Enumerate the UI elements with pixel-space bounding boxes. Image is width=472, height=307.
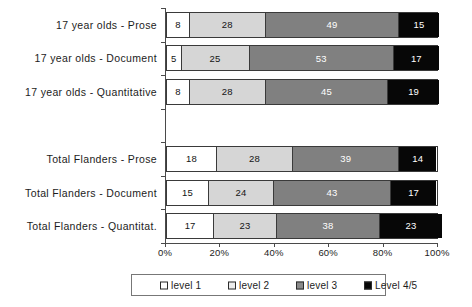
legend-label: level 1: [171, 280, 201, 291]
bar-segment-1: 8: [167, 80, 189, 104]
bar-segment-3: 43: [273, 181, 390, 205]
bar-segment-1: 18: [167, 147, 216, 171]
bar-segment-value: 8: [175, 20, 180, 30]
bar-segment-value: 28: [222, 20, 233, 30]
bar-segment-value: 49: [327, 20, 338, 30]
category-label: Total Flanders - Document: [25, 187, 157, 199]
stacked-bar: 8284519: [166, 79, 438, 105]
bar-segment-3: 38: [276, 214, 379, 238]
bar-segment-value: 8: [175, 87, 180, 97]
stacked-bar-chart: 17 year olds - Prose17 year olds - Docum…: [0, 0, 472, 307]
y-axis-tick: [161, 176, 165, 177]
bar-segment-value: 43: [327, 188, 338, 198]
legend-item[interactable]: Level 4/5: [364, 280, 417, 291]
bar-segment-1: 5: [167, 46, 181, 70]
bar-segment-value: 24: [235, 188, 246, 198]
stacked-bar: 15244317: [166, 180, 438, 206]
y-axis-tick: [161, 8, 165, 9]
bar-segment-value: 15: [182, 188, 193, 198]
stacked-bar: 8284915: [166, 12, 438, 38]
bar-segment-2: 28: [189, 13, 265, 37]
bar-segment-4: 17: [390, 181, 436, 205]
category-label: Total Flanders - Prose: [47, 153, 157, 165]
bar-segment-1: 15: [167, 181, 208, 205]
bar-segment-value: 28: [249, 154, 260, 164]
x-axis-tick-label: 20%: [210, 247, 230, 258]
bar-segment-1: 8: [167, 13, 189, 37]
stacked-bar: 18283914: [166, 146, 438, 172]
y-axis-tick: [161, 109, 165, 110]
chart-legend: level 1level 2level 3Level 4/5: [131, 274, 386, 296]
plot-area: 8284915525531782845191828391415244317172…: [165, 8, 437, 243]
bar-segment-2: 23: [213, 214, 276, 238]
x-axis-tick-labels: 0%20%40%60%80%100%: [165, 247, 438, 261]
y-axis-tick: [161, 142, 165, 143]
bar-segment-4: 14: [398, 147, 436, 171]
bar-segment-value: 23: [240, 221, 251, 231]
legend-swatch-icon: [228, 281, 236, 289]
category-label: Total Flanders - Quantitat.: [27, 220, 157, 232]
bar-segment-2: 28: [216, 147, 292, 171]
bar-segment-value: 17: [185, 221, 196, 231]
bar-segment-value: 25: [210, 54, 221, 64]
bar-segment-value: 19: [408, 87, 419, 97]
category-label: 17 year olds - Prose: [56, 19, 157, 31]
y-axis-tick: [161, 209, 165, 210]
category-label: 17 year olds - Document: [35, 52, 157, 64]
category-label: 17 year olds - Quantitative: [25, 86, 157, 98]
bar-segment-value: 5: [171, 54, 176, 64]
legend-label: level 2: [239, 280, 269, 291]
bar-segment-value: 15: [414, 20, 425, 30]
legend-swatch-icon: [296, 281, 304, 289]
x-axis-tick-label: 60%: [318, 247, 338, 258]
bar-segment-value: 14: [412, 154, 423, 164]
bar-segment-value: 38: [322, 221, 333, 231]
bar-segment-value: 45: [321, 87, 332, 97]
y-axis-line: [165, 8, 166, 243]
legend-item[interactable]: level 1: [160, 280, 201, 291]
legend-label: Level 4/5: [375, 280, 417, 291]
stacked-bar: 17233823: [166, 213, 438, 239]
bar-segment-3: 53: [249, 46, 393, 70]
legend-label: level 3: [307, 280, 337, 291]
y-axis-tick: [161, 75, 165, 76]
x-axis-tick-label: 40%: [264, 247, 284, 258]
bar-segment-1: 17: [167, 214, 213, 238]
bar-segment-value: 28: [222, 87, 233, 97]
bar-segment-value: 17: [411, 54, 422, 64]
legend-swatch-icon: [160, 281, 168, 289]
bar-segment-value: 17: [408, 188, 419, 198]
bar-segment-value: 18: [186, 154, 197, 164]
bar-segment-value: 53: [316, 54, 327, 64]
x-axis-tick-label: 100%: [424, 247, 449, 258]
stacked-bar: 5255317: [166, 45, 438, 71]
bar-segment-2: 28: [189, 80, 265, 104]
category-axis-labels: 17 year olds - Prose17 year olds - Docum…: [0, 8, 161, 243]
bar-segment-3: 39: [292, 147, 398, 171]
bar-segment-3: 49: [265, 13, 398, 37]
bar-segment-4: 15: [398, 13, 439, 37]
x-axis-line: [165, 243, 438, 244]
x-axis-tick-label: 80%: [373, 247, 393, 258]
legend-item[interactable]: level 3: [296, 280, 337, 291]
y-axis-tick: [161, 42, 165, 43]
bar-segment-2: 24: [208, 181, 273, 205]
bar-segment-value: 39: [340, 154, 351, 164]
legend-swatch-icon: [364, 281, 372, 289]
bar-segment-value: 23: [405, 221, 416, 231]
legend-item[interactable]: level 2: [228, 280, 269, 291]
bar-segment-4: 23: [379, 214, 442, 238]
bar-segment-4: 17: [393, 46, 439, 70]
bar-segment-2: 25: [181, 46, 249, 70]
bar-segment-3: 45: [265, 80, 387, 104]
x-axis-tick-label: 0%: [158, 247, 172, 258]
bar-segment-4: 19: [387, 80, 439, 104]
